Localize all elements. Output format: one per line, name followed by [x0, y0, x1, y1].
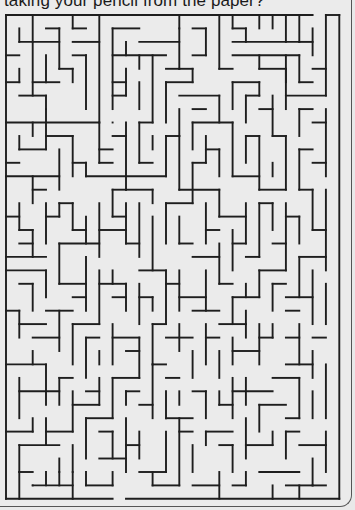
maze-grid[interactable]	[0, 0, 355, 510]
